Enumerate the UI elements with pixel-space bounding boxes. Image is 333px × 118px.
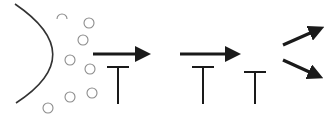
t-3-icon xyxy=(244,72,266,104)
bubble-icon xyxy=(87,88,97,98)
t-shape-group xyxy=(107,67,266,104)
bubble-icon xyxy=(65,55,75,65)
arrow-up-right-icon xyxy=(283,30,317,45)
bubble-icon xyxy=(65,92,75,102)
parabolic-surface xyxy=(15,4,53,103)
bubble-icon xyxy=(57,14,67,19)
arrow-down-right-icon xyxy=(283,60,316,75)
flow-diagram xyxy=(0,0,333,118)
bubble-icon xyxy=(78,35,88,45)
t-1-icon xyxy=(107,67,129,104)
bubble-icon xyxy=(84,18,94,28)
bubble-icon xyxy=(43,103,53,113)
bubble-icon xyxy=(85,64,95,74)
arrow-group xyxy=(93,30,317,75)
curve-line xyxy=(15,4,53,103)
t-2-icon xyxy=(192,67,214,104)
